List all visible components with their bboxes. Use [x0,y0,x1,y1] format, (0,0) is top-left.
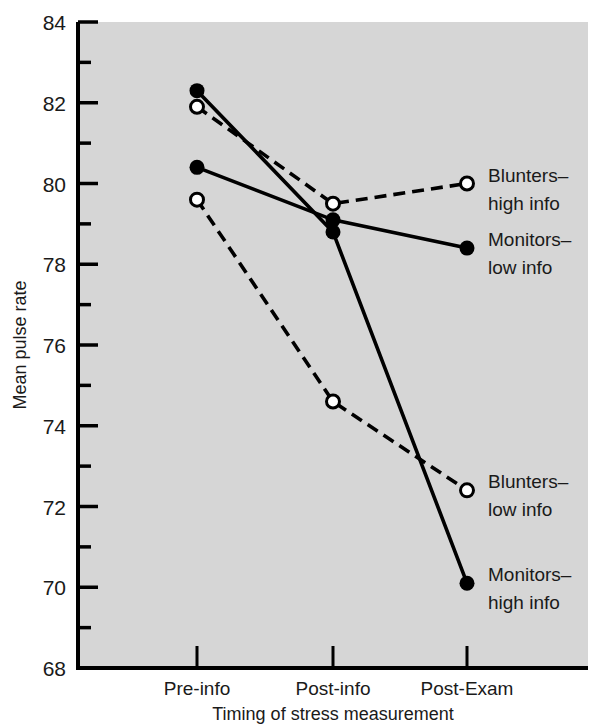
data-point-filled [460,241,475,256]
x-category-label: Pre-info [164,678,231,699]
x-category-label: Post-Exam [421,678,514,699]
series-label-line1: Monitors– [488,564,572,585]
x-axis-title: Timing of stress measurement [212,704,453,724]
data-point-filled [460,576,475,591]
y-axis-tick-labels: 687072747678808284 [43,11,67,680]
y-tick-label: 70 [43,576,66,599]
data-point-open [191,100,204,113]
y-tick-label: 78 [43,253,66,276]
series-label-line2: low info [488,257,552,278]
y-axis-title: Mean pulse rate [10,280,30,409]
series-label-line2: high info [488,193,560,214]
series-label-line2: high info [488,592,560,613]
y-tick-label: 74 [43,415,67,438]
x-axis-category-labels: Pre-infoPost-infoPost-Exam [164,678,514,699]
data-point-filled [326,212,341,227]
y-tick-label: 82 [43,92,66,115]
y-tick-label: 84 [43,11,67,34]
x-category-label: Post-info [296,678,371,699]
data-point-filled [190,83,205,98]
series-label-line1: Blunters– [488,165,569,186]
line-chart: 687072747678808284 Pre-infoPost-infoPost… [0,0,603,728]
chart-figure: 687072747678808284 Pre-infoPost-infoPost… [0,0,603,728]
data-point-open [327,395,340,408]
series-label-line1: Blunters– [488,471,569,492]
series-label-line1: Monitors– [488,229,572,250]
data-point-open [461,177,474,190]
y-tick-label: 80 [43,173,66,196]
data-point-open [191,193,204,206]
y-tick-label: 72 [43,496,66,519]
data-point-open [461,484,474,497]
data-point-filled [190,160,205,175]
data-point-open [327,197,340,210]
series-label-line2: low info [488,499,552,520]
y-tick-label: 76 [43,334,66,357]
y-tick-label: 68 [43,657,66,680]
